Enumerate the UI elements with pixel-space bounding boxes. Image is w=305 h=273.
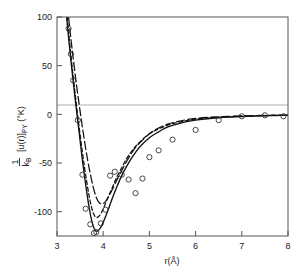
y-title-numerator: 1 [10,159,20,164]
y-tick-label: 0 [47,110,52,120]
x-tick-label: 3 [54,241,59,251]
x-tick-label: 4 [101,241,106,251]
x-tick-label: 7 [239,241,244,251]
figure-background [0,0,305,273]
x-tick-label: 8 [285,241,290,251]
y-tick-label: 50 [42,61,52,71]
x-axis-title: r(Å) [165,256,180,266]
x-tick-label: 5 [147,241,152,251]
pair-potential-figure: 345678 100500-50-100 r(Å) 1kB[u(r)]PY (°… [0,0,305,273]
x-tick-label: 6 [193,241,198,251]
y-tick-label: -50 [39,158,52,168]
y-tick-label: -100 [34,207,52,217]
plot-canvas: 345678 100500-50-100 r(Å) 1kB[u(r)]PY (°… [0,0,305,273]
y-tick-label: 100 [37,12,52,22]
